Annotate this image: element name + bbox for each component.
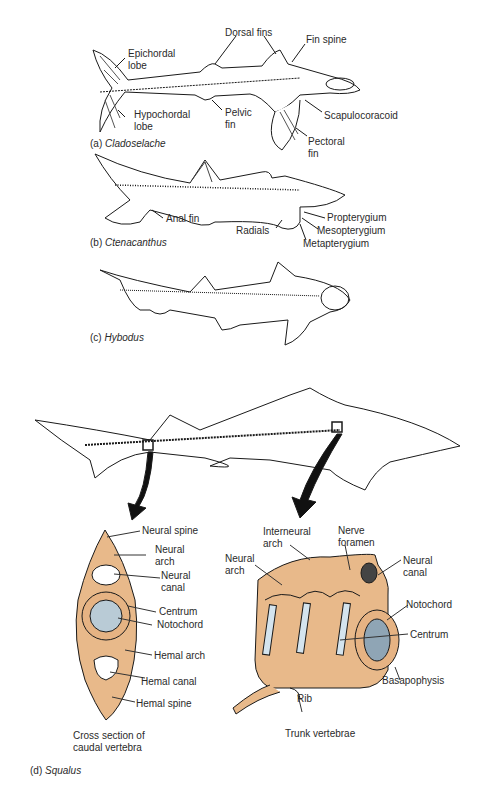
- label-interneural-arch-line2: arch: [263, 538, 282, 550]
- label-hypochordal-lobe-line1: Hypochordal: [134, 109, 190, 121]
- label-nerve-foramen-line2: foramen: [338, 537, 375, 549]
- label-pelvic-fin-line1: Pelvic: [225, 107, 252, 119]
- label-rib: Rib: [297, 693, 312, 705]
- label-notochord-trunk: Notochord: [406, 599, 452, 611]
- label-hemal-spine: Hemal spine: [136, 698, 192, 710]
- label-dorsal-fins: Dorsal fins: [225, 27, 272, 39]
- label-neural-canal-line2: canal: [161, 582, 185, 594]
- label-pelvic-fin-line2: fin: [225, 119, 236, 131]
- caudal-vertebra-drawing: [76, 530, 160, 720]
- caption-a: (a) Cladoselache: [90, 138, 166, 150]
- label-pectoral-fin-line2: fin: [308, 148, 319, 160]
- cross-section-title-line2: caudal vertebra: [73, 742, 142, 754]
- caption-d: (d) Squalus: [30, 765, 81, 777]
- label-neural-canal-line1: Neural: [161, 570, 190, 582]
- label-neural-arch-line1: Neural: [155, 544, 184, 556]
- label-hypochordal-lobe-line2: lobe: [134, 121, 153, 133]
- label-epichordal-lobe-line2: lobe: [128, 60, 147, 72]
- label-epichordal-lobe-line1: Epichordal: [128, 48, 175, 60]
- label-mesopterygium: Mesopterygium: [317, 225, 385, 237]
- label-neural-canal-trunk-line1: Neural: [403, 555, 432, 567]
- label-nerve-foramen-line1: Nerve: [338, 525, 365, 537]
- ctenacanthus-drawing: [95, 154, 345, 240]
- label-radials: Radials: [236, 225, 269, 237]
- label-fin-spine: Fin spine: [306, 34, 347, 46]
- label-anal-fin: Anal fin: [166, 213, 199, 225]
- label-neural-spine: Neural spine: [142, 525, 198, 537]
- label-scapulocoracoid: Scapulocoracoid: [324, 110, 398, 122]
- label-notochord-cross: Notochord: [157, 619, 203, 631]
- squalus-drawing: [35, 388, 460, 520]
- label-propterygium: Propterygium: [327, 212, 386, 224]
- label-hemal-arch: Hemal arch: [154, 650, 205, 662]
- label-neural-arch-trunk-line2: arch: [225, 565, 244, 577]
- caption-c: (c) Hybodus: [90, 332, 144, 344]
- label-centrum-trunk: Centrum: [410, 629, 448, 641]
- cross-section-title-line1: Cross section of: [73, 730, 145, 742]
- label-neural-canal-trunk-line2: canal: [403, 567, 427, 579]
- trunk-vertebrae-drawing: [233, 545, 408, 714]
- label-centrum-cross: Centrum: [159, 606, 197, 618]
- label-interneural-arch-line1: Interneural: [263, 526, 311, 538]
- label-neural-arch-line2: arch: [155, 556, 174, 568]
- label-metapterygium: Metapterygium: [303, 238, 369, 250]
- label-pectoral-fin-line1: Pectoral: [308, 136, 345, 148]
- label-basapophysis: Basapophysis: [382, 675, 444, 687]
- trunk-vertebrae-title: Trunk vertebrae: [285, 728, 355, 740]
- caption-b: (b) Ctenacanthus: [90, 237, 167, 249]
- label-hemal-canal: Hemal canal: [141, 676, 197, 688]
- label-neural-arch-trunk-line1: Neural: [225, 553, 254, 565]
